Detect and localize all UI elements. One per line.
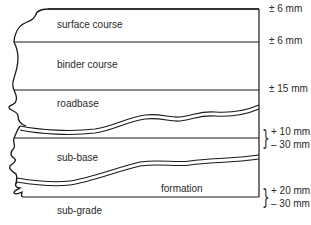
tolerance-subbase-upper: + 10 mm xyxy=(271,127,310,137)
subbase-left-edge xyxy=(10,126,20,184)
tolerance-surface-binder: ± 6 mm xyxy=(269,36,302,46)
brace-icon: } xyxy=(262,186,270,208)
formation-left-edge xyxy=(14,182,23,197)
layer-label-sub-base: sub-base xyxy=(57,153,98,163)
left-edge-outline xyxy=(9,9,259,126)
tolerance-formation-upper: + 20 mm xyxy=(271,186,310,196)
layer-label-surface-course: surface course xyxy=(57,20,123,30)
layer-label-sub-grade: sub-grade xyxy=(57,206,102,216)
tolerance-binder-roadbase: ± 15 mm xyxy=(269,84,308,94)
tolerance-surface-top: ± 6 mm xyxy=(269,4,302,14)
layer-label-formation: formation xyxy=(161,184,203,194)
tolerance-subbase-lower: – 30 mm xyxy=(271,140,310,150)
brace-icon: } xyxy=(262,127,270,149)
roadbase-bottom-wavy xyxy=(20,105,259,130)
layer-label-binder-course: binder course xyxy=(57,60,118,70)
subbase-bottom-wavy xyxy=(17,155,259,182)
tolerance-formation-lower: – 30 mm xyxy=(271,199,310,209)
layer-label-roadbase: roadbase xyxy=(57,99,99,109)
